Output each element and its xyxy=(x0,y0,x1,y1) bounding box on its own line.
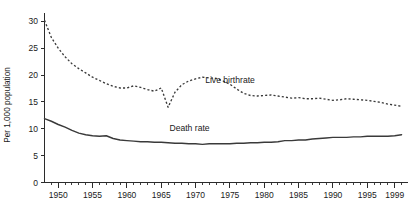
x-axis-tick-label: 1965 xyxy=(152,190,171,200)
y-axis-tick-label: 0 xyxy=(33,178,38,188)
x-axis-tick-label: 1970 xyxy=(186,190,205,200)
x-axis-tick-label: 1990 xyxy=(323,190,342,200)
chart-container: 051015202530 195019551960196519701975198… xyxy=(0,0,414,211)
x-axis-tick-label: 1950 xyxy=(49,190,68,200)
y-axis-tick-label: 5 xyxy=(33,151,38,161)
x-axis-tick-label: 1995 xyxy=(358,190,377,200)
y-axis-title-text: Per 1,000 population xyxy=(3,67,12,143)
x-axis-tick-label: 1980 xyxy=(255,190,274,200)
annotation-death-rate: Death rate xyxy=(169,123,209,133)
x-axis-tick-label: 1999 xyxy=(385,190,404,200)
y-axis-title: Per 1,000 population xyxy=(3,67,12,143)
birth-and-death-rate-line-chart: 051015202530 195019551960196519701975198… xyxy=(0,0,414,211)
y-axis-tick-label: 30 xyxy=(29,16,39,26)
x-axis-tick-label: 1955 xyxy=(83,190,102,200)
y-axis-tick-label: 10 xyxy=(29,124,39,134)
x-axis-tick-label: 1985 xyxy=(289,190,308,200)
x-axis-tick-label: 1960 xyxy=(117,190,136,200)
y-axis-tick-label: 15 xyxy=(29,97,39,107)
plot-background xyxy=(0,0,414,211)
y-axis-tick-label: 20 xyxy=(29,70,39,80)
x-axis-tick-label: 1975 xyxy=(220,190,239,200)
annotation-live-birthrate: Live birthrate xyxy=(205,75,255,85)
y-axis-tick-label: 25 xyxy=(29,43,39,53)
